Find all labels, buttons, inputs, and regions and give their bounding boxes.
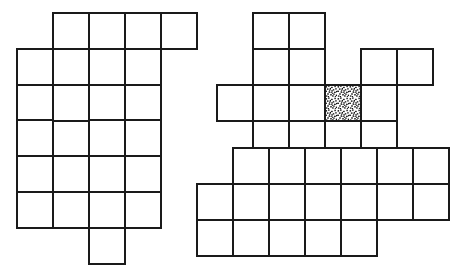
figure-top-right-svg	[216, 12, 434, 158]
figure-top-right	[216, 12, 434, 158]
grid-cell	[89, 120, 125, 156]
grid-cell	[361, 85, 397, 121]
grid-cell	[233, 184, 269, 220]
grid-cell	[217, 85, 253, 121]
figure-top-left	[16, 12, 198, 122]
grid-cell	[53, 192, 89, 228]
grid-cell	[53, 85, 89, 121]
grid-cell	[269, 184, 305, 220]
grid-cell	[125, 156, 161, 192]
shaded-cell	[325, 85, 361, 121]
grid-cell	[125, 13, 161, 49]
grid-cell	[341, 148, 377, 184]
grid-cell	[125, 85, 161, 121]
figure-bottom-left	[16, 119, 162, 265]
grid-cell	[253, 85, 289, 121]
grid-cell	[17, 85, 53, 121]
grid-cell	[361, 49, 397, 85]
grid-cell	[269, 148, 305, 184]
figure-bottom-right	[196, 147, 450, 257]
grid-cell	[89, 13, 125, 49]
grid-cell	[289, 85, 325, 121]
figure-bottom-right-svg	[196, 147, 450, 257]
grid-cell	[89, 192, 125, 228]
grid-cell	[341, 184, 377, 220]
grid-cell	[413, 184, 449, 220]
grid-cell	[233, 220, 269, 256]
grid-cell	[89, 85, 125, 121]
grid-cell	[341, 220, 377, 256]
grid-cell	[89, 156, 125, 192]
grid-cell	[269, 220, 305, 256]
grid-cell	[253, 49, 289, 85]
grid-cell	[197, 220, 233, 256]
grid-cell	[53, 49, 89, 85]
grid-cell	[17, 192, 53, 228]
grid-cell	[53, 13, 89, 49]
grid-cell	[289, 13, 325, 49]
grid-cell	[89, 228, 125, 264]
grid-cell	[125, 192, 161, 228]
grid-cell	[89, 49, 125, 85]
grid-cell	[233, 148, 269, 184]
grid-cell	[305, 148, 341, 184]
grid-cell	[125, 49, 161, 85]
grid-cell	[377, 148, 413, 184]
grid-cell	[305, 184, 341, 220]
grid-cell	[253, 13, 289, 49]
grid-cell	[125, 120, 161, 156]
grid-cell	[377, 184, 413, 220]
figure-top-left-svg	[16, 12, 198, 122]
grid-cell	[17, 49, 53, 85]
grid-cell	[397, 49, 433, 85]
grid-cell	[305, 220, 341, 256]
grid-cell	[289, 49, 325, 85]
figure-bottom-left-svg	[16, 119, 162, 265]
grid-cell	[161, 13, 197, 49]
grid-cell	[197, 184, 233, 220]
grid-cell	[413, 148, 449, 184]
grid-cell	[53, 156, 89, 192]
grid-cell	[17, 120, 53, 156]
grid-cell	[17, 156, 53, 192]
